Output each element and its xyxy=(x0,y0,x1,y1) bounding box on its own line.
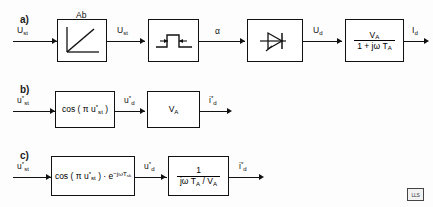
block-cosine-control-law-with-deadtime: cos ( π u*st ) · e−jωTsk xyxy=(51,156,135,196)
block-ramp-characteristic xyxy=(57,19,107,62)
arrowhead-c2 xyxy=(161,174,166,180)
ramp-curve-icon xyxy=(62,24,102,58)
signal-label-input-a: Ust xyxy=(17,25,28,35)
wire-input-b xyxy=(13,111,55,112)
block-diagram-figure: a) Ust Ab Ust xyxy=(0,0,433,207)
arrowhead-a2 xyxy=(140,38,145,44)
row-label-a: a) xyxy=(20,14,29,25)
wire-a2-a3 xyxy=(199,41,245,42)
arrowhead-a4 xyxy=(337,38,342,44)
arrowhead-output-b xyxy=(227,108,232,114)
wire-output-c xyxy=(229,177,262,178)
formula-gain-b: VA xyxy=(169,105,179,114)
signal-label-ud-c: u*d xyxy=(144,161,155,171)
transfer-function-a4: VA 1 + jω TA xyxy=(354,31,395,51)
signal-label-id-a: Id xyxy=(412,25,418,35)
arrowhead-a3 xyxy=(240,38,245,44)
block-gain-va: VA xyxy=(147,91,200,128)
wire-output-b xyxy=(200,111,230,112)
arrowhead-output-c xyxy=(259,174,264,180)
signal-label-id-c: i*d xyxy=(239,161,247,171)
wire-input-a xyxy=(13,41,57,42)
signal-label-ud-a: Ud xyxy=(313,25,323,35)
signal-label-input-b: u*st xyxy=(17,95,29,105)
signal-label-alpha: α xyxy=(215,26,220,36)
signal-label-input-c: u*st xyxy=(17,161,29,171)
arrowhead-output-a xyxy=(424,38,429,44)
block-load-transfer-function: VA 1 + jω TA xyxy=(345,19,404,62)
block-pulse-generator xyxy=(148,19,199,62)
block-cosine-control-law: cos ( π u*st ) xyxy=(55,91,115,128)
signal-label-a1-out: Ust xyxy=(117,25,128,35)
formula-cosine-deadtime-c: cos ( π u*st ) · e−jωTsk xyxy=(55,172,131,181)
block-inverse-impedance: 1 jω TA / VA xyxy=(168,156,229,196)
formula-inverse-impedance-c: 1 jω TA / VA xyxy=(177,166,220,186)
corner-stamp: LLS xyxy=(407,188,424,201)
formula-cosine-b: cos ( π u*st ) xyxy=(62,105,108,114)
thyristor-icon xyxy=(258,29,292,53)
arrowhead-b2 xyxy=(140,108,145,114)
block-thyristor-converter xyxy=(247,19,303,62)
signal-label-ud-b: u*d xyxy=(124,95,135,105)
pulse-width-icon xyxy=(153,28,195,54)
signal-label-id-b: i*d xyxy=(209,95,217,105)
